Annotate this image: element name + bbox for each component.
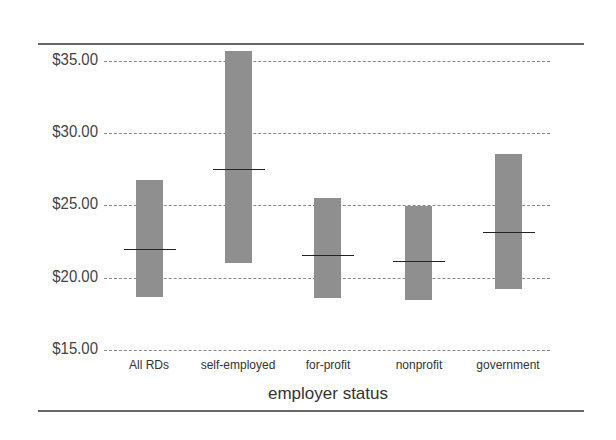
range-bar-nonprofit bbox=[405, 206, 432, 300]
x-label-nonprofit: nonprofit bbox=[369, 358, 469, 372]
x-label-self-employed: self-employed bbox=[188, 358, 288, 372]
range-bar-for-profit bbox=[314, 198, 341, 298]
top-rule bbox=[38, 43, 584, 45]
range-bar-all-rds bbox=[136, 180, 163, 296]
x-label-all-rds: All RDs bbox=[99, 358, 199, 372]
gridline-15 bbox=[104, 350, 550, 351]
median-line-self-employed bbox=[213, 169, 265, 170]
x-label-government: government bbox=[458, 358, 558, 372]
median-line-for-profit bbox=[302, 255, 354, 256]
median-line-all-rds bbox=[124, 249, 176, 250]
gridline-30 bbox=[104, 133, 550, 134]
median-line-nonprofit bbox=[393, 261, 445, 262]
y-tick-35: $35.00 bbox=[47, 50, 98, 70]
x-label-for-profit: for-profit bbox=[278, 358, 378, 372]
y-tick-15: $15.00 bbox=[47, 339, 98, 359]
range-bar-government bbox=[495, 154, 522, 290]
range-bar-self-employed bbox=[225, 51, 252, 264]
bottom-rule bbox=[38, 410, 584, 412]
y-tick-25: $25.00 bbox=[47, 194, 98, 214]
y-tick-20: $20.00 bbox=[47, 267, 98, 287]
x-axis-title: employer status bbox=[0, 384, 616, 404]
y-tick-30: $30.00 bbox=[47, 122, 98, 142]
median-line-government bbox=[483, 232, 535, 233]
gridline-35 bbox=[104, 61, 550, 62]
